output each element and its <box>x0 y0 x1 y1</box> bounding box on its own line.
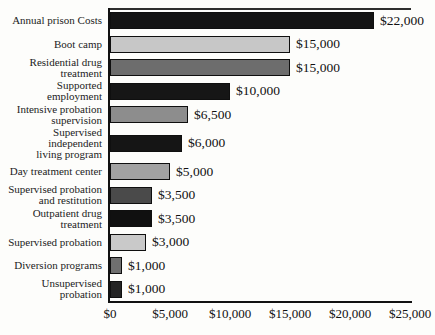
category-label-line: Diversion programs <box>0 260 102 271</box>
bar-track: $15,000 <box>110 59 410 76</box>
x-tick-label: $5,000 <box>152 306 188 322</box>
category-label-line: Day treatment center <box>0 166 102 177</box>
bar <box>110 210 152 227</box>
bar <box>110 234 146 251</box>
category-label-line: supervision <box>0 115 102 126</box>
bar <box>110 36 290 53</box>
x-tick-label: $15,000 <box>269 306 311 322</box>
category-label-line: treatment <box>0 68 102 79</box>
category-label: Supervised probationand restitution <box>0 184 110 206</box>
bar-track: $5,000 <box>110 163 410 180</box>
bar-track: $3,500 <box>110 210 410 227</box>
bar-row: Boot camp$15,000 <box>0 33 435 57</box>
category-label: Boot camp <box>0 39 110 50</box>
value-label: $5,000 <box>176 164 213 180</box>
bar-track: $3,000 <box>110 234 410 251</box>
bar <box>110 106 188 123</box>
category-label-line: Annual prison Costs <box>0 15 102 26</box>
category-label-line: treatment <box>0 219 102 230</box>
bar <box>110 281 122 298</box>
value-label: $15,000 <box>296 36 340 52</box>
category-label-line: Boot camp <box>0 39 102 50</box>
bar-row: Supervised probation$3,000 <box>0 230 435 254</box>
bar-row: Day treatment center$5,000 <box>0 160 435 184</box>
bar-track: $10,000 <box>110 83 410 100</box>
bar-row: Supported employment$10,000 <box>0 80 435 104</box>
bar <box>110 135 182 152</box>
bar-row: Supervised independentliving program$6,0… <box>0 127 435 160</box>
bar-track: $1,000 <box>110 281 410 298</box>
bar-track: $22,000 <box>110 12 410 29</box>
category-label-line: Unsupervised probation <box>0 278 102 300</box>
bar-row: Residential drugtreatment$15,000 <box>0 56 435 80</box>
category-label: Annual prison Costs <box>0 15 110 26</box>
category-label: Supported employment <box>0 80 110 102</box>
category-label-line: Outpatient drug <box>0 208 102 219</box>
cost-comparison-bar-chart: Annual prison Costs$22,000Boot camp$15,0… <box>0 0 435 335</box>
x-tick-label: $0 <box>104 306 117 322</box>
value-label: $6,500 <box>194 107 231 123</box>
bar-row: Outpatient drugtreatment$3,500 <box>0 207 435 231</box>
category-label: Intensive probationsupervision <box>0 104 110 126</box>
category-label-line: living program <box>0 149 102 160</box>
bar-row: Unsupervised probation$1,000 <box>0 277 435 301</box>
bar <box>110 59 290 76</box>
category-label-line: Supervised independent <box>0 127 102 149</box>
bar-rows-container: Annual prison Costs$22,000Boot camp$15,0… <box>0 9 435 301</box>
value-label: $1,000 <box>128 258 165 274</box>
x-tick-label: $10,000 <box>209 306 251 322</box>
bar-track: $6,000 <box>110 135 410 152</box>
bar <box>110 257 122 274</box>
category-label: Day treatment center <box>0 166 110 177</box>
category-label-line: and restitution <box>0 195 102 206</box>
value-label: $1,000 <box>128 281 165 297</box>
bar-track: $3,500 <box>110 187 410 204</box>
value-label: $3,500 <box>158 187 195 203</box>
value-label: $3,000 <box>152 234 189 250</box>
bar <box>110 83 230 100</box>
value-label: $3,500 <box>158 211 195 227</box>
bar-track: $6,500 <box>110 106 410 123</box>
category-label-line: Supported employment <box>0 80 102 102</box>
bar-row: Annual prison Costs$22,000 <box>0 9 435 33</box>
x-tick-label: $25,000 <box>389 306 431 322</box>
value-label: $10,000 <box>236 83 280 99</box>
x-axis-tick-labels: $0$5,000$10,000$15,000$20,000$25,000 <box>0 306 435 328</box>
bar <box>110 187 152 204</box>
category-label: Outpatient drugtreatment <box>0 208 110 230</box>
bar-track: $1,000 <box>110 257 410 274</box>
category-label: Residential drugtreatment <box>0 57 110 79</box>
bar <box>110 12 374 29</box>
category-label-line: Supervised probation <box>0 237 102 248</box>
bar-row: Supervised probationand restitution$3,50… <box>0 183 435 207</box>
bar-row: Intensive probationsupervision$6,500 <box>0 103 435 127</box>
category-label: Unsupervised probation <box>0 278 110 300</box>
category-label: Supervised probation <box>0 237 110 248</box>
value-label: $22,000 <box>380 13 424 29</box>
category-label: Diversion programs <box>0 260 110 271</box>
value-label: $15,000 <box>296 60 340 76</box>
bar-track: $15,000 <box>110 36 410 53</box>
bar-row: Diversion programs$1,000 <box>0 254 435 278</box>
x-axis-line <box>108 301 412 303</box>
bar <box>110 163 170 180</box>
value-label: $6,000 <box>188 135 225 151</box>
x-tick-label: $20,000 <box>329 306 371 322</box>
category-label: Supervised independentliving program <box>0 127 110 160</box>
